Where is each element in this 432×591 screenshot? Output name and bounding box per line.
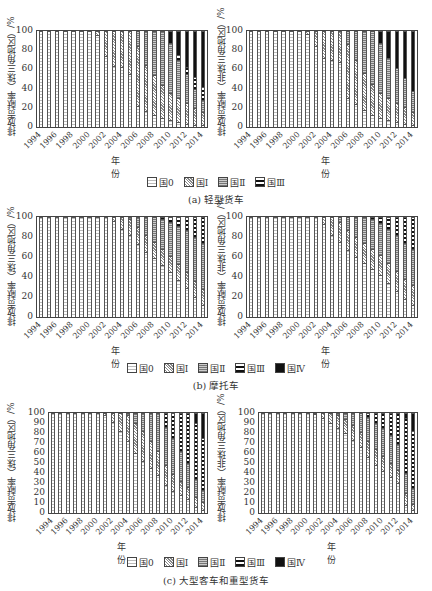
segment-2 [344, 413, 346, 419]
segment-0 [290, 31, 292, 127]
bar-1995 [47, 217, 51, 317]
segment-1 [397, 470, 399, 483]
segment-3 [397, 413, 399, 444]
bar-2009 [160, 217, 164, 317]
legend-item: 国Ⅳ [275, 556, 305, 569]
y-axis-label: 排放贡献率（珠三角地区）/% [4, 214, 17, 326]
segment-3 [194, 77, 196, 89]
y-tick: 60 [25, 448, 45, 457]
x-tick: 1996 [248, 130, 269, 151]
segment-0 [82, 413, 84, 513]
legend-label: 国Ⅰ [176, 364, 189, 374]
bar-1998 [71, 31, 75, 127]
x-tick: 1998 [54, 320, 75, 341]
segment-0 [97, 413, 99, 513]
segment-3 [412, 217, 414, 249]
segment-0 [315, 46, 317, 127]
bar-2007 [144, 31, 148, 127]
x-tick: 1998 [54, 130, 75, 151]
bar-1995 [58, 413, 62, 513]
segment-1 [157, 451, 159, 475]
segment-3 [202, 87, 204, 100]
segment-2 [412, 488, 414, 504]
bar-1998 [291, 413, 295, 513]
x-tick: 2002 [297, 130, 318, 151]
segment-0 [412, 125, 414, 127]
segment-0 [113, 221, 115, 317]
bar-2000 [297, 31, 301, 127]
segment-0 [177, 122, 179, 127]
bar-2006 [141, 413, 145, 513]
legend-label: 国Ⅲ [247, 558, 265, 568]
segment-0 [262, 413, 264, 513]
bar-2008 [366, 413, 370, 513]
y-tick: 10 [25, 498, 45, 507]
bar-2000 [87, 217, 91, 317]
y-tick: 70 [25, 438, 45, 447]
segment-3 [177, 55, 179, 60]
segment-1 [322, 413, 324, 418]
y-axis-label: 排放贡献率（非珠三角地区）/% [214, 28, 227, 136]
bar-2006 [346, 31, 350, 127]
segment-0 [371, 269, 373, 317]
legend-item: 国Ⅲ [255, 176, 285, 189]
segment-0 [169, 120, 171, 127]
segment-3 [412, 431, 414, 488]
x-tick: 2000 [71, 130, 92, 151]
segment-2 [180, 451, 182, 481]
segment-0 [157, 475, 159, 513]
segment-0 [314, 414, 316, 513]
bar-2013 [403, 217, 407, 317]
segment-1 [105, 31, 107, 56]
segment-3 [382, 413, 384, 428]
bar-2012 [185, 31, 189, 127]
segment-0 [375, 465, 377, 513]
segment-1 [165, 465, 167, 485]
bar-2010 [378, 31, 382, 127]
bar-1997 [73, 413, 77, 513]
segment-2 [387, 58, 389, 98]
segment-0 [121, 67, 123, 127]
segment-2 [404, 243, 406, 279]
segment-3 [169, 217, 171, 222]
segment-2 [194, 237, 196, 281]
segment-0 [48, 217, 50, 317]
segment-1 [331, 31, 333, 60]
segment-1 [180, 481, 182, 495]
bar-2000 [306, 413, 310, 513]
y-tick: 40 [235, 468, 255, 477]
segment-0 [266, 217, 268, 317]
x-tick: 1994 [22, 320, 43, 341]
segment-0 [137, 106, 139, 127]
y-tick: 50 [25, 458, 45, 467]
segment-0 [322, 418, 324, 513]
segment-3 [202, 438, 204, 490]
segment-1 [145, 235, 147, 252]
segment-4 [396, 31, 398, 68]
x-tick: 1996 [248, 320, 269, 341]
legend-swatch-icon [147, 177, 157, 187]
segment-0 [150, 468, 152, 513]
segment-0 [355, 257, 357, 317]
caption-a: (a) 轻型货车 [0, 192, 432, 206]
y-tick: 80 [235, 428, 255, 437]
segment-0 [331, 235, 333, 317]
x-tick: 2014 [394, 320, 415, 341]
bar-2007 [149, 413, 153, 513]
segment-1 [145, 65, 147, 111]
segment-0 [186, 124, 188, 127]
segment-2 [153, 217, 155, 242]
segment-0 [344, 433, 346, 513]
segment-0 [367, 457, 369, 513]
segment-1 [195, 497, 197, 507]
bar-2014 [411, 413, 415, 513]
segment-2 [367, 417, 369, 441]
segment-1 [187, 487, 189, 499]
segment-0 [187, 499, 189, 513]
legend-swatch-icon [164, 557, 174, 567]
bar-1995 [268, 413, 272, 513]
bar-1999 [79, 217, 83, 317]
x-tick: 2010 [152, 130, 173, 151]
x-tick: 1994 [232, 130, 253, 151]
bar-2003 [112, 217, 116, 317]
